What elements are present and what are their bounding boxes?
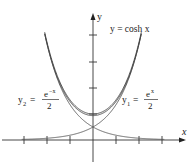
y1-denominator: 2 [148,101,153,111]
x-axis-arrow-icon [179,138,186,143]
y-axis [89,20,97,162]
cosh-label: y = cosh x [110,24,150,34]
y2-denominator: 2 [47,101,52,111]
y1-label: y 1 = e x 2 [122,88,158,111]
y2-subscript: 2 [23,100,26,107]
y2-equals: = [30,95,35,105]
y2-numerator: e [44,89,48,99]
y2-exponent: −x [49,88,55,94]
curve-y1 [22,34,142,140]
y2-label: y 2 = e −x 2 [18,88,59,111]
y-axis-arrow-icon [91,13,96,20]
x-axis-label: x [181,126,187,137]
y1-numerator: e [146,89,150,99]
y1-equals: = [133,95,138,105]
y-axis-label: y [97,11,102,22]
cosh-chart: x y y = cosh x y 2 = e −x 2 y 1 = e x 2 [0,0,193,164]
curve-y2 [45,34,165,140]
y1-subscript: 1 [127,100,130,107]
y1-exponent: x [151,88,154,94]
